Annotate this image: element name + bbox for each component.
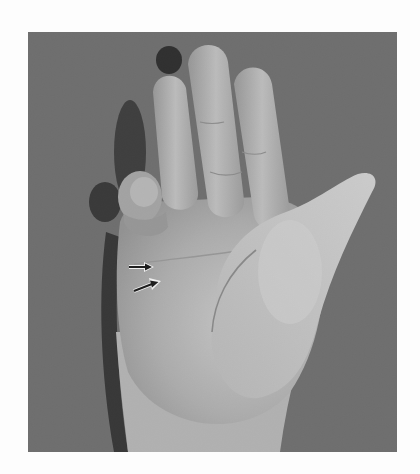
clinical-hand-photo <box>28 32 397 452</box>
hand-illustration <box>28 32 397 452</box>
grain-overlay <box>28 32 397 452</box>
